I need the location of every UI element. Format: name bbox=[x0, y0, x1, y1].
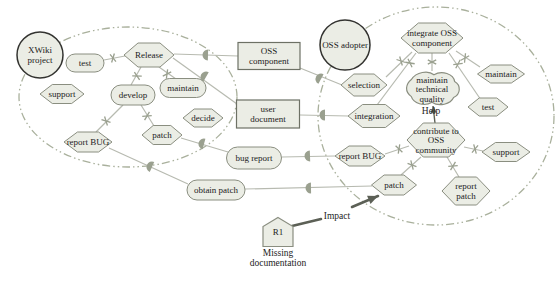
impact-annotation: Impact bbox=[292, 192, 380, 226]
obtain-patch-label: obtain patch bbox=[194, 185, 239, 195]
dependency-d-marker bbox=[314, 72, 324, 84]
help-contribution-link: Help bbox=[422, 106, 441, 123]
report-patch: reportpatch bbox=[442, 177, 490, 205]
decomposition-cross-mark bbox=[448, 162, 457, 170]
test-right: test bbox=[468, 98, 508, 116]
decomposition-link bbox=[96, 105, 123, 132]
maintain-left-label: maintain bbox=[167, 83, 199, 93]
selection-label: selection bbox=[348, 80, 380, 90]
r1-belief: R1 bbox=[263, 218, 293, 247]
obtain-patch: obtain patch bbox=[187, 180, 245, 200]
maintain-technical-quality: maintaintechnicalquality bbox=[407, 72, 460, 104]
decomposition-link bbox=[401, 157, 421, 175]
patch-right-label: patch bbox=[384, 180, 404, 190]
integrate-oss-component-label: integrate OSScomponent bbox=[407, 28, 457, 48]
bug-report: bug report bbox=[227, 147, 282, 169]
report-bug-right: report BUG bbox=[335, 146, 385, 166]
release: Release bbox=[124, 43, 174, 67]
dependency-link bbox=[282, 151, 335, 162]
r1-caption: Missingdocumentation bbox=[250, 248, 307, 268]
impact-leader-line bbox=[292, 219, 321, 226]
maintain-right: maintain bbox=[478, 65, 525, 83]
help-label: Help bbox=[422, 106, 441, 116]
release-label: Release bbox=[135, 50, 163, 60]
maintain-left: maintain bbox=[160, 79, 206, 98]
support-right-label: support bbox=[493, 147, 520, 157]
develop-label: develop bbox=[119, 90, 148, 100]
patch-left-label: patch bbox=[152, 130, 172, 140]
patch-right: patch bbox=[372, 175, 417, 195]
decomposition-cross-mark bbox=[101, 116, 110, 125]
dependency-d-marker bbox=[304, 151, 310, 162]
develop: develop bbox=[111, 85, 155, 105]
report-bug-left: report BUG bbox=[64, 132, 112, 152]
integration: integration bbox=[348, 105, 400, 128]
dependency-d-marker bbox=[320, 110, 326, 121]
report-patch-label: reportpatch bbox=[455, 181, 477, 201]
dependency-link bbox=[174, 49, 238, 60]
xwiki-project-label: XWikiproject bbox=[28, 45, 53, 64]
test-left: test bbox=[66, 54, 104, 72]
report-bug-right-label: report BUG bbox=[339, 151, 382, 161]
r1-belief-label: R1 bbox=[273, 227, 284, 237]
impact-arrowhead bbox=[367, 192, 380, 204]
support-right: support bbox=[482, 143, 530, 162]
test-left-label: test bbox=[79, 58, 92, 68]
patch-left: patch bbox=[142, 126, 182, 145]
contribute-to-oss-community: contribute toOSScommunity bbox=[407, 123, 465, 157]
oss-adopter: OSS adopter bbox=[320, 20, 370, 70]
maintain-right-label: maintain bbox=[485, 69, 517, 79]
figure-canvas: HelpImpactXWikiprojecttestReleasesupport… bbox=[0, 0, 556, 281]
decomposition-link bbox=[464, 144, 483, 153]
integrate-oss-component: integrate OSScomponent bbox=[401, 23, 463, 53]
dependency-d-marker bbox=[202, 49, 208, 60]
decomposition-link bbox=[131, 67, 142, 85]
decide: decide bbox=[183, 109, 223, 127]
decomposition-link bbox=[456, 51, 480, 67]
support-left: support bbox=[40, 85, 84, 104]
dependency-link bbox=[300, 110, 348, 121]
selection: selection bbox=[341, 74, 387, 96]
user-document: userdocument bbox=[237, 100, 300, 128]
bug-report-label: bug report bbox=[235, 153, 273, 163]
decomposition-link bbox=[385, 144, 409, 154]
decomposition-link bbox=[141, 105, 154, 126]
dependency-link bbox=[245, 183, 372, 194]
test-right-label: test bbox=[482, 102, 495, 112]
decomposition-link bbox=[104, 53, 125, 62]
oss-adopter-label: OSS adopter bbox=[322, 40, 368, 50]
decomposition-link bbox=[159, 67, 176, 79]
report-bug-left-label: report BUG bbox=[67, 137, 110, 147]
support-left-label: support bbox=[49, 89, 76, 99]
istar-diagram: HelpImpactXWikiprojecttestReleasesupport… bbox=[0, 0, 556, 281]
dependency-link bbox=[181, 137, 228, 152]
decomposition-cross-mark bbox=[397, 56, 406, 65]
decomposition-link bbox=[447, 157, 459, 177]
integration-label: integration bbox=[355, 111, 394, 121]
decomposition-link bbox=[428, 53, 436, 71]
xwiki-project: XWikiproject bbox=[17, 32, 63, 78]
dependency-link bbox=[300, 68, 342, 85]
decomposition-link bbox=[377, 53, 416, 105]
dependency-link bbox=[109, 148, 188, 184]
maintain-technical-quality-label: maintaintechnicalquality bbox=[416, 75, 449, 104]
decide-label: decide bbox=[191, 113, 214, 123]
oss-component: OSScomponent bbox=[238, 43, 300, 70]
impact-label: Impact bbox=[324, 211, 351, 221]
dependency-d-marker bbox=[305, 183, 311, 194]
decomposition-cross-mark bbox=[142, 112, 151, 120]
